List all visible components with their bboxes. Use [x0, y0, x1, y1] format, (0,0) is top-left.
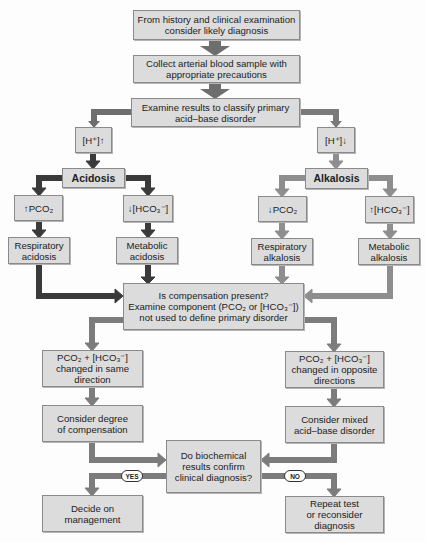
alkalosis-box: Alkalosis [305, 168, 368, 189]
respiratory-acidosis-box: Respiratoryacidosis [8, 237, 70, 264]
compensation-line-3: not used to define primary disorder [128, 312, 298, 323]
start-line-1: From history and clinical examination [138, 14, 296, 25]
examine-line-2: acid–base disorder [142, 113, 290, 124]
start-line-2: consider likely diagnosis [138, 25, 296, 36]
hco3-up-label: ↑[HCO₃⁻] [369, 204, 409, 215]
degree-of-compensation-box: Consider degreeof compensation [42, 405, 143, 442]
decide-line-1: Decide on [65, 503, 121, 514]
decide-management-box: Decide onmanagement [42, 495, 143, 532]
confirm-line-3: clinical diagnosis? [175, 472, 252, 483]
compensation-line-1: Is compensation present? [128, 290, 298, 301]
resp-alkalosis-line-1: Respiratory [257, 241, 306, 252]
same-direction-box: PCO₂ + [HCO₃⁻]changed in samedirection [42, 350, 143, 387]
examine-results-box: Examine results to classify primaryacid–… [131, 98, 300, 127]
same-direction-line-2: changed in same [56, 363, 129, 374]
repeat-line-2: or reconsider [307, 509, 363, 520]
repeat-line-3: diagnosis [307, 520, 363, 531]
collect-sample-box: Collect arterial blood sample withapprop… [133, 55, 300, 83]
mixed-line-2: acid–base disorder [294, 425, 375, 436]
compensation-line-2: Examine component (PCO₂ or [HCO₃⁻]) [128, 301, 298, 312]
acidosis-label: Acidosis [72, 173, 116, 184]
decide-line-2: management [65, 514, 121, 525]
start-box: From history and clinical examinationcon… [133, 10, 300, 40]
pco2-decreased-box: ↓PCO₂ [258, 196, 307, 222]
no-badge: NO [284, 470, 306, 482]
arrow-examine-to-h-up [88, 112, 131, 128]
acid-base-flowchart: From history and clinical examinationcon… [0, 0, 425, 542]
respiratory-alkalosis-box: Respiratoryalkalosis [251, 238, 313, 265]
pco2-increased-box: ↑PCO₂ [14, 195, 63, 221]
pco2-up-label: ↑PCO₂ [24, 203, 53, 214]
metab-alkalosis-line-2: alkalosis [368, 252, 409, 263]
compensation-box: Is compensation present?Examine componen… [123, 283, 304, 330]
hco3-down-label: ↓[HCO₃⁻] [128, 203, 168, 214]
metabolic-alkalosis-box: Metabolicalkalosis [358, 238, 420, 265]
resp-acidosis-line-2: acidosis [14, 251, 63, 262]
confirm-diagnosis-box: Do biochemicalresults confirmclinical di… [166, 440, 261, 493]
no-label: NO [290, 473, 300, 480]
h-ion-decreased-box: [H⁺]↓ [317, 127, 355, 153]
hco3-decreased-box: ↓[HCO₃⁻] [123, 195, 173, 222]
alkalosis-label: Alkalosis [313, 173, 359, 184]
collect-line-1: Collect arterial blood sample with [146, 58, 287, 69]
opposite-direction-box: PCO₂ + [HCO₃⁻]changed in oppositedirecti… [285, 351, 384, 388]
degree-line-2: of compensation [57, 424, 128, 435]
opposite-direction-line-3: directions [292, 375, 378, 386]
h-up-label: [H⁺]↑ [82, 135, 104, 146]
repeat-line-1: Repeat test [307, 498, 363, 509]
confirm-line-1: Do biochemical [175, 450, 252, 461]
mixed-disorder-box: Consider mixedacid–base disorder [285, 406, 384, 443]
h-down-label: [H⁺]↓ [325, 135, 347, 146]
hco3-increased-box: ↑[HCO₃⁻] [365, 196, 414, 223]
pco2-down-label: ↓PCO₂ [268, 204, 297, 215]
mixed-line-1: Consider mixed [294, 414, 375, 425]
same-direction-line-3: direction [56, 374, 129, 385]
degree-line-1: Consider degree [57, 413, 128, 424]
confirm-line-2: results confirm [175, 461, 252, 472]
arrow-examine-to-h-down [300, 112, 342, 128]
repeat-test-box: Repeat testor reconsiderdiagnosis [285, 496, 384, 533]
metab-acidosis-line-2: acidosis [126, 251, 167, 262]
metab-alkalosis-line-1: Metabolic [368, 241, 409, 252]
metab-acidosis-line-1: Metabolic [126, 240, 167, 251]
collect-line-2: appropriate precautions [146, 69, 287, 80]
yes-badge: YES [121, 470, 143, 482]
h-ion-increased-box: [H⁺]↑ [75, 127, 112, 153]
examine-line-1: Examine results to classify primary [142, 102, 290, 113]
same-direction-line-1: PCO₂ + [HCO₃⁻] [56, 352, 129, 363]
metabolic-acidosis-box: Metabolicacidosis [116, 237, 178, 264]
resp-alkalosis-line-2: alkalosis [257, 252, 306, 263]
yes-label: YES [125, 473, 138, 480]
opposite-direction-line-1: PCO₂ + [HCO₃⁻] [292, 353, 378, 364]
opposite-direction-line-2: changed in opposite [292, 364, 378, 375]
acidosis-box: Acidosis [62, 168, 125, 188]
resp-acidosis-line-1: Respiratory [14, 240, 63, 251]
